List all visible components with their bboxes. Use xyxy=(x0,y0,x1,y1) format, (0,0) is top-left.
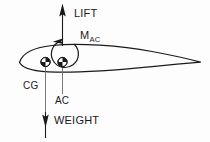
airfoil-force-diagram: LIFT MAC CG AC WEIGHT xyxy=(0,0,210,142)
moment-subscript: AC xyxy=(89,35,100,44)
cg-label: CG xyxy=(23,81,38,91)
diagram-canvas xyxy=(0,0,210,142)
moment-label: MAC xyxy=(80,30,100,41)
cg-marker xyxy=(41,57,50,66)
ac-label: AC xyxy=(55,96,69,106)
lift-label: LIFT xyxy=(74,8,97,19)
ac-marker xyxy=(58,57,67,66)
weight-force-arrow xyxy=(42,112,49,138)
weight-label: WEIGHT xyxy=(54,115,99,126)
moment-symbol: M xyxy=(80,29,89,41)
